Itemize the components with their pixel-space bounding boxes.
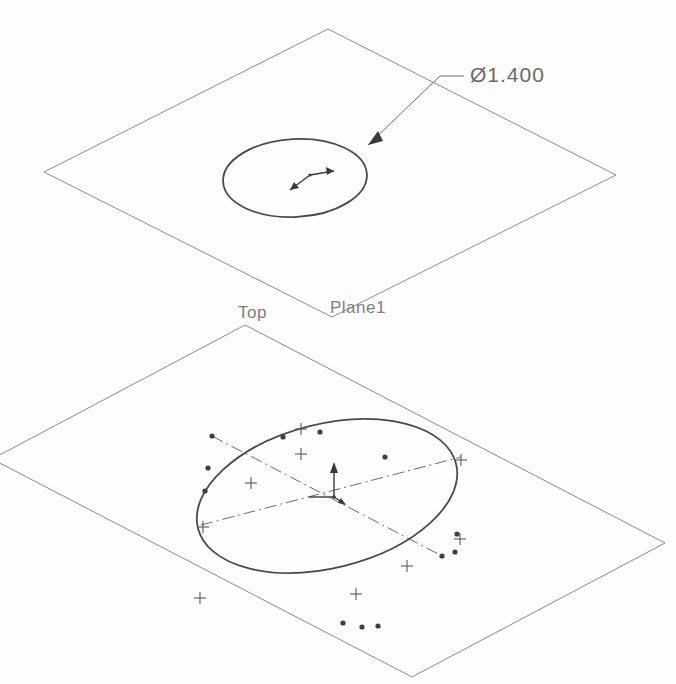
plus-mark[interactable] [401, 560, 413, 572]
control-point[interactable] [454, 531, 459, 536]
control-point[interactable] [375, 623, 380, 628]
control-point[interactable] [340, 620, 345, 625]
plus-mark[interactable] [295, 423, 307, 435]
sketch-point-markers[interactable] [194, 423, 467, 604]
plus-mark[interactable] [295, 448, 307, 460]
control-point[interactable] [452, 549, 457, 554]
construction-endpoint-dot[interactable] [439, 553, 444, 558]
plane-group-top[interactable]: Top [0, 303, 665, 677]
spline-control-points[interactable] [202, 429, 459, 629]
control-point[interactable] [205, 465, 210, 470]
spline-sketch-top[interactable] [181, 394, 474, 598]
plane1-label[interactable]: Plane1 [330, 298, 386, 317]
origin-marker-plane1 [290, 167, 334, 190]
cad-viewport[interactable]: Ø1.400 Plane1 Top [0, 0, 676, 684]
diameter-dimension-label[interactable]: Ø1.400 [470, 63, 545, 86]
control-point[interactable] [359, 624, 364, 629]
top-plane-outline[interactable] [0, 325, 665, 677]
plus-mark[interactable] [350, 588, 362, 600]
top-plane-label[interactable]: Top [238, 303, 267, 322]
control-point[interactable] [202, 488, 207, 493]
origin-marker-top [309, 462, 346, 505]
dimension-leader-plane1[interactable] [368, 76, 464, 145]
construction-line-major[interactable] [212, 436, 442, 556]
control-point[interactable] [382, 454, 387, 459]
plane-group-plane1[interactable]: Ø1.400 Plane1 [44, 29, 616, 317]
construction-endpoint-dot[interactable] [209, 433, 214, 438]
cad-drawing-canvas[interactable]: Ø1.400 Plane1 Top [0, 0, 676, 684]
construction-line-minor[interactable] [201, 457, 461, 525]
plus-mark[interactable] [194, 592, 206, 604]
circle-sketch-plane1[interactable] [221, 135, 369, 220]
construction-lines-top[interactable] [201, 433, 461, 558]
control-point[interactable] [317, 429, 322, 434]
plus-mark[interactable] [245, 477, 257, 489]
control-point[interactable] [280, 434, 285, 439]
